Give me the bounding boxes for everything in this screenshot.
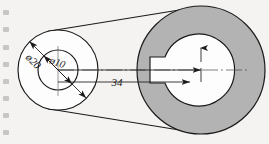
technical-drawing-canvas: ø20 ø10 34 bbox=[0, 0, 269, 144]
center-distance-label: 34 bbox=[111, 76, 124, 88]
engineering-drawing: ø20 ø10 34 bbox=[0, 0, 269, 144]
